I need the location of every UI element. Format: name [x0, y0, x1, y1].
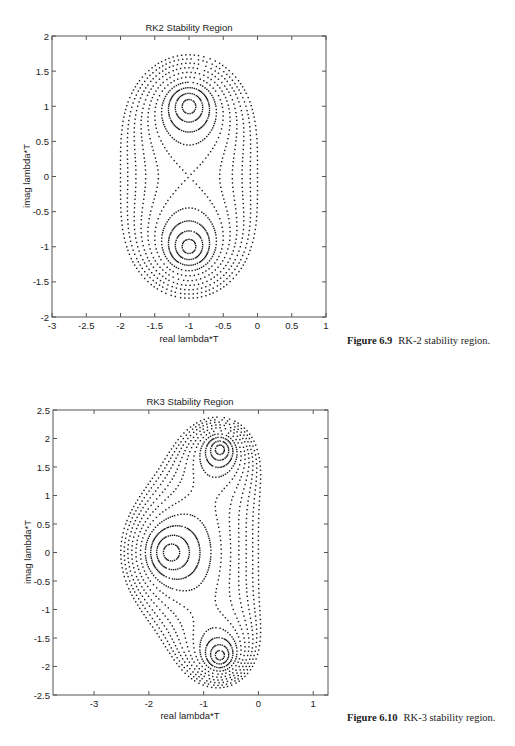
- contour-dot: [134, 254, 135, 255]
- contour-dot: [157, 132, 158, 133]
- contour-dot: [258, 562, 259, 563]
- contour-dot: [202, 282, 203, 283]
- contour-dot: [200, 583, 201, 584]
- contour-dot: [243, 123, 244, 124]
- contour-dot: [238, 563, 239, 564]
- contour-dot: [179, 89, 180, 90]
- figure-text: RK-2 stability region.: [398, 335, 490, 346]
- contour-dot: [165, 59, 166, 60]
- contour-dot: [138, 569, 139, 570]
- contour-dot: [221, 557, 222, 558]
- contour-dot: [241, 242, 242, 243]
- contour-dot: [225, 669, 226, 670]
- contour-dot: [215, 441, 216, 442]
- contour-dot: [120, 160, 121, 161]
- contour-dot: [151, 599, 152, 600]
- contour-dot: [255, 646, 256, 647]
- y-tick-label: 0: [44, 171, 49, 182]
- contour-dot: [208, 238, 209, 239]
- contour-dot: [182, 107, 183, 108]
- contour-dot: [163, 643, 164, 644]
- contour-dot: [158, 598, 159, 599]
- contour-dot: [188, 443, 189, 444]
- contour-dot: [163, 634, 164, 635]
- contour-dot: [229, 70, 230, 71]
- contour-dot: [163, 555, 164, 556]
- contour-dot: [157, 546, 158, 547]
- x-tick-label: -1: [185, 320, 193, 331]
- contour-dot: [140, 128, 141, 129]
- contour-dot: [210, 556, 211, 557]
- contour-dot: [250, 195, 251, 196]
- contour-dot: [154, 286, 155, 287]
- contour-dot: [138, 90, 139, 91]
- contour-dot: [175, 93, 176, 94]
- contour-dot: [152, 478, 153, 479]
- contour-dot: [134, 127, 135, 128]
- contour-dot: [234, 149, 235, 150]
- contour-dot: [136, 268, 137, 269]
- contour-dot: [121, 224, 122, 225]
- contour-dot: [184, 121, 185, 122]
- contour-dot: [195, 264, 196, 265]
- ticks: -3-2.5-2-1.5-1-0.500.51-2-1.5-1-0.500.51…: [33, 31, 329, 332]
- contour-dot: [177, 79, 178, 80]
- contour-dot: [186, 562, 187, 563]
- contour-dot: [173, 271, 174, 272]
- contour-dot: [120, 142, 121, 143]
- contour-dot: [243, 467, 244, 468]
- y-tick-label: -0.5: [34, 576, 50, 587]
- contour-dot: [206, 281, 207, 282]
- contour-dot: [156, 82, 157, 83]
- contour-dot: [178, 128, 179, 129]
- contour-dot: [238, 532, 239, 533]
- contour-dot: [144, 194, 145, 195]
- contour-dot: [202, 86, 203, 87]
- contour-dot: [246, 522, 247, 523]
- x-tick-label: -1: [199, 698, 207, 709]
- contour-dot: [166, 130, 167, 131]
- contour-dot: [201, 250, 202, 251]
- contour-dot: [191, 678, 192, 679]
- contour-dot: [238, 567, 239, 568]
- contour-dot: [219, 644, 220, 645]
- contour-dot: [200, 642, 201, 643]
- contour-dot: [236, 128, 237, 129]
- contour-dot: [181, 457, 182, 458]
- contour-dot: [210, 436, 211, 437]
- contour-dot: [173, 70, 174, 71]
- contour-dot: [207, 426, 208, 427]
- contour-dot: [170, 232, 171, 233]
- contour-dot: [165, 278, 166, 279]
- contour-dot: [242, 153, 243, 154]
- contour-dot: [257, 194, 258, 195]
- contour-dot: [154, 120, 155, 121]
- contour-dot: [157, 165, 158, 166]
- contour-dot: [152, 618, 153, 619]
- contour-dot: [192, 429, 193, 430]
- contour-dot: [236, 447, 237, 448]
- contour-dot: [250, 208, 251, 209]
- contour-dot: [134, 212, 135, 213]
- contour-dot: [127, 101, 128, 102]
- contour-dot: [120, 177, 121, 178]
- contour-dot: [167, 200, 168, 201]
- figure-label: Figure 6.10: [347, 712, 398, 723]
- contour-dot: [208, 102, 209, 103]
- y-axis-label: imag lambda*T: [22, 520, 33, 584]
- contour-dot: [215, 427, 216, 428]
- contour-dot: [178, 639, 179, 640]
- contour-dot: [258, 544, 259, 545]
- contour-dot: [178, 84, 179, 85]
- contour-dot: [215, 657, 216, 658]
- contour-dot: [203, 213, 204, 214]
- contour-dot: [153, 602, 154, 603]
- contour-dot: [216, 115, 217, 116]
- contour-dot: [236, 86, 237, 87]
- rk3-chart-svg: RK3 Stability Region -3-2-101-2.5-2-1.5-…: [0, 385, 340, 746]
- contour-dot: [229, 129, 230, 130]
- contour-dot: [258, 588, 259, 589]
- contour-dot: [221, 553, 222, 554]
- contour-dot: [242, 161, 243, 162]
- contour-dot: [155, 195, 156, 196]
